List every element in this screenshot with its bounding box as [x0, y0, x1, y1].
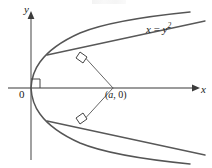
- x-axis: [8, 85, 200, 92]
- right-angle-marker-upper: [76, 52, 87, 63]
- right-angle-marker-lower: [76, 113, 87, 124]
- origin-label: 0: [19, 89, 25, 100]
- curve-equation-label: x = y2: [146, 24, 171, 35]
- parabola-normals-figure: x = y2 x y 0 (a, 0): [0, 0, 212, 168]
- y-axis-label: y: [24, 4, 29, 15]
- x-axis-label: x: [201, 84, 206, 95]
- figure-canvas: [0, 0, 212, 168]
- point-a-label: (a, 0): [105, 90, 127, 100]
